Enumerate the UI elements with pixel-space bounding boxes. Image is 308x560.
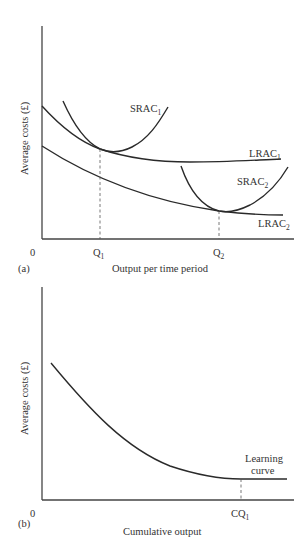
- origin-label-a: 0: [30, 247, 35, 258]
- learning-curve-label-line2: curve: [251, 465, 275, 476]
- y-axis-label-b: Average costs (£): [19, 361, 31, 435]
- lrac1-curve: [42, 106, 281, 162]
- lrac2-label: LRAC2: [258, 218, 290, 232]
- panel-tag-b: (b): [18, 518, 31, 530]
- srac2-label: SRAC2: [237, 176, 268, 190]
- panel-b: Learning curve 0 CQ1 Average costs (£) C…: [18, 287, 294, 537]
- q1-label: Q1: [93, 247, 105, 261]
- cq1-label: CQ1: [231, 508, 250, 522]
- figure: SRAC1 LRAC1 SRAC2 LRAC2 0 Q1 Q2 Average …: [0, 0, 308, 560]
- learning-curve-label-line1: Learning: [245, 453, 284, 464]
- origin-label-b: 0: [30, 508, 35, 519]
- q2-label: Q2: [213, 247, 225, 261]
- x-axis-label-b: Cumulative output: [123, 526, 202, 537]
- y-axis-label-a: Average costs (£): [19, 101, 31, 175]
- x-axis-label-a: Output per time period: [112, 263, 209, 274]
- srac1-label: SRAC1: [130, 103, 161, 117]
- panel-a: SRAC1 LRAC1 SRAC2 LRAC2 0 Q1 Q2 Average …: [18, 26, 294, 275]
- panel-tag-a: (a): [18, 263, 30, 275]
- srac2-curve: [181, 166, 288, 212]
